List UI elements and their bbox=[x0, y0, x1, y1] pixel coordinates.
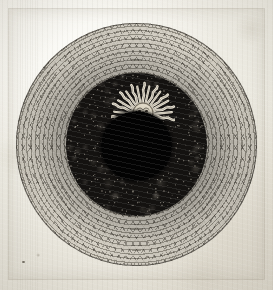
foxing-speck bbox=[22, 261, 25, 263]
engraving-plate bbox=[0, 0, 273, 290]
lunar-disc bbox=[101, 111, 172, 181]
